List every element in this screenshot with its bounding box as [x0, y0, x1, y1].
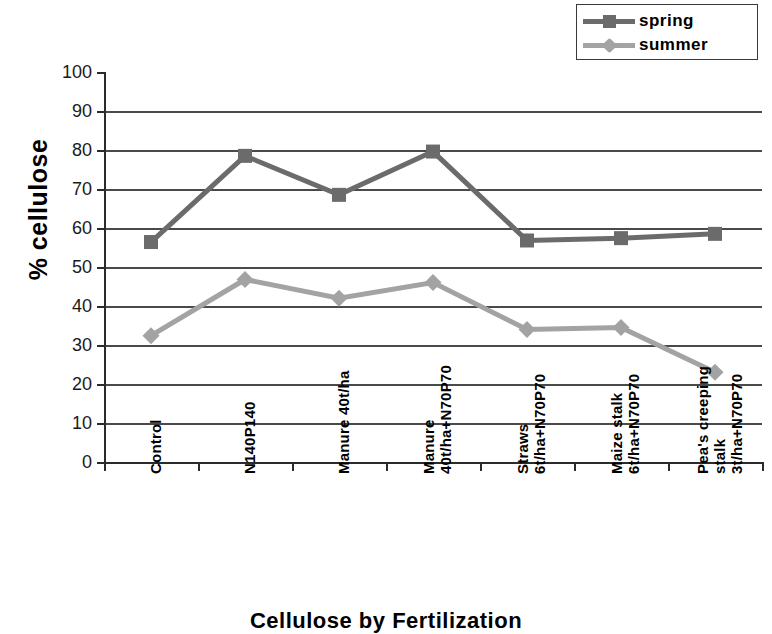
x-category-label-line: Manure: [420, 365, 437, 474]
x-category-label: Pea's creepingstalk3t/ha+N70P70: [694, 366, 745, 474]
x-category-label-line: Straws: [514, 374, 531, 474]
x-category-label-line: Pea's creeping: [694, 366, 711, 474]
x-category-label-line: Control: [147, 419, 164, 474]
data-point-square[interactable]: [426, 145, 440, 159]
x-category-label-line: N140P140: [241, 402, 258, 475]
series-line-spring: [151, 152, 715, 242]
x-category-label-line: stalk: [711, 366, 728, 474]
x-category-label-line: Manure 40t/ha: [335, 371, 352, 474]
data-point-square[interactable]: [332, 188, 346, 202]
x-axis-title: Cellulose by Fertilization: [0, 608, 772, 634]
data-point-diamond[interactable]: [519, 321, 536, 338]
data-point-square[interactable]: [708, 227, 722, 241]
x-category-label: N140P140: [241, 402, 258, 475]
x-category-label: Manure 40t/ha: [335, 371, 352, 474]
data-point-square[interactable]: [520, 233, 534, 247]
data-point-diamond[interactable]: [613, 319, 630, 336]
x-category-label-line: 40t/ha+N70P70: [437, 365, 454, 474]
data-point-square[interactable]: [238, 149, 252, 163]
x-category-label-line: 6t/ha+N70P70: [625, 374, 642, 474]
series-line-summer: [151, 279, 715, 372]
x-category-label-line: 3t/ha+N70P70: [728, 366, 745, 474]
x-category-label: Control: [147, 419, 164, 474]
x-category-label: Manure40t/ha+N70P70: [420, 365, 454, 474]
x-category-label: Maize stalk6t/ha+N70P70: [608, 374, 642, 474]
data-point-square[interactable]: [614, 231, 628, 245]
data-point-square[interactable]: [144, 235, 158, 249]
x-category-label-line: 6t/ha+N70P70: [531, 374, 548, 474]
data-point-diamond[interactable]: [331, 290, 348, 307]
x-category-label: Straws6t/ha+N70P70: [514, 374, 548, 474]
data-point-diamond[interactable]: [425, 274, 442, 291]
x-category-label-line: Maize stalk: [608, 374, 625, 474]
